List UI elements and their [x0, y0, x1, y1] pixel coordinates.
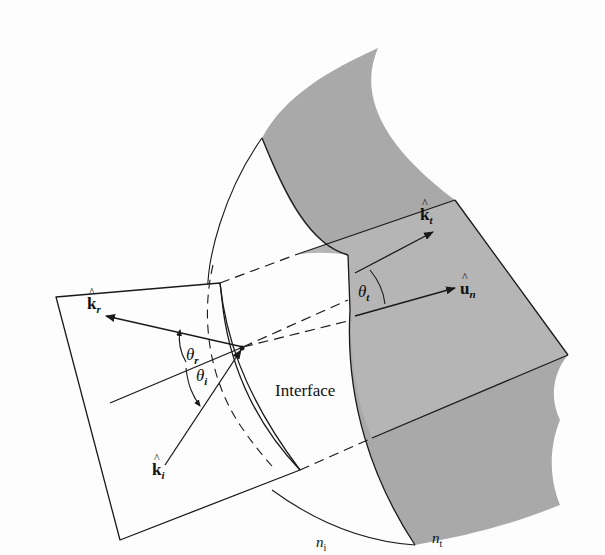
k-t-sub: t	[429, 214, 432, 226]
interface-outer-arc	[208, 138, 262, 300]
label-n-t: nt	[432, 531, 442, 549]
hat-symbol: ^	[422, 197, 428, 209]
u-n-sub: n	[469, 288, 475, 300]
label-theta-r: θr	[186, 346, 199, 366]
incidence-point	[240, 346, 245, 351]
label-theta-i: θi	[196, 367, 207, 387]
label-k-reflected: ^kr	[87, 295, 101, 315]
label-n-i: ni	[316, 535, 326, 553]
k-r-sub: r	[96, 303, 100, 315]
label-u-normal: ^un	[460, 280, 476, 300]
theta-r-sub: r	[194, 354, 198, 366]
hat-symbol: ^	[154, 452, 160, 464]
n-i-sub: i	[324, 542, 327, 553]
refraction-diagram: ^kr ^ki ^kt ^un θr θi θt Interface ni nt	[0, 0, 605, 555]
n-t-sub: t	[440, 538, 443, 549]
label-k-incident: ^ki	[152, 461, 165, 481]
hat-symbol: ^	[89, 286, 95, 298]
theta-i-sub: i	[204, 375, 207, 387]
n-i-symbol: n	[316, 534, 324, 550]
hat-symbol: ^	[462, 271, 468, 283]
label-k-transmitted: ^kt	[420, 206, 433, 226]
label-theta-t: θt	[358, 283, 369, 303]
n-t-symbol: n	[432, 530, 440, 546]
plane-of-incidence-i	[56, 283, 300, 540]
label-interface: Interface	[275, 382, 335, 399]
k-i-sub: i	[161, 469, 164, 481]
diagram-graphics	[0, 0, 605, 555]
theta-t-sub: t	[366, 291, 369, 303]
